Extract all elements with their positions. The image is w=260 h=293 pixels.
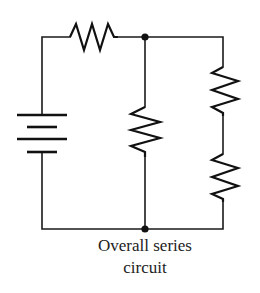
junction-top-dot — [141, 33, 148, 40]
resistor-middle-icon — [131, 107, 160, 157]
resistor-right-lower-icon — [212, 154, 238, 202]
wire-left-top — [42, 37, 70, 115]
caption-line-2: circuit — [45, 259, 245, 276]
caption-line-1: Overall series — [45, 237, 245, 254]
wire-top — [118, 37, 223, 67]
resistor-top-icon — [70, 24, 118, 50]
battery-icon — [17, 115, 67, 152]
resistor-right-upper-icon — [212, 67, 238, 116]
junction-bottom-dot — [141, 225, 148, 232]
wire-right-bottom — [42, 152, 223, 229]
